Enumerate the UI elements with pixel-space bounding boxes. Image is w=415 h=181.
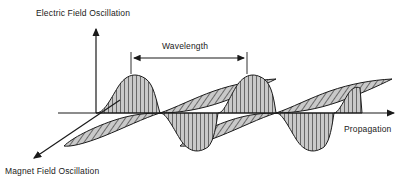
magnetic-lobe-back-2 [276,79,392,113]
diagram-canvas: Electric Field Oscillation Magnet Field … [0,0,415,181]
propagation-axis-label: Propagation [344,125,392,134]
magnetic-lobe-front-1 [64,113,160,146]
electric-crest-1 [96,75,160,113]
electromagnetic-wave-diagram [0,0,415,181]
magnetic-axis-label: Magnet Field Oscillation [5,167,99,176]
electric-trough-2 [276,113,334,151]
electric-axis-label: Electric Field Oscillation [36,9,130,18]
wavelength-label: Wavelength [162,42,208,51]
electric-trough-1 [160,113,218,151]
wavelength-marker [131,52,247,74]
